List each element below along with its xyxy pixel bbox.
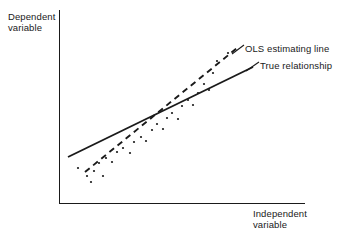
scatter-point [162,128,164,130]
scatter-point [93,170,95,172]
scatter-point [177,118,179,120]
scatter-point [102,175,104,177]
scatter-point [86,175,88,177]
plot-canvas [0,0,342,239]
scatter-point [77,167,79,169]
x-axis-label: Independent variable [253,208,307,230]
ols-estimating-line [85,48,237,172]
scatter-point [111,161,113,163]
scatter-point [208,89,210,91]
x-axis-label-line2: variable [253,219,307,230]
ols-estimating-line-label: OLS estimating line [245,43,329,54]
regression-figure: Dependent variable Independent variable … [0,0,342,239]
scatter-point [227,52,229,54]
scatter-point [116,151,118,153]
y-axis-label-line2: variable [8,22,55,33]
scatter-point [181,105,183,107]
scatter-point [105,157,107,159]
scatter-point [156,123,158,125]
scatter-point [212,72,214,74]
scatter-point [171,112,173,114]
true-relationship-label: True relationship [260,60,332,71]
scatter-point [98,162,100,164]
scatter-point [129,152,131,154]
scatter-point [151,129,153,131]
scatter-point [122,147,124,149]
y-axis-label-line1: Dependent [8,11,55,22]
y-axis-label: Dependent variable [8,11,55,33]
true-label-leader-line [246,62,259,71]
scatter-point [90,181,92,183]
scatter-point [216,60,218,62]
scatter-point [192,104,194,106]
x-axis-label-line1: Independent [253,208,307,219]
scatter-point [166,117,168,119]
true-relationship-line [68,67,253,157]
scatter-point [140,136,142,138]
scatter-point [145,140,147,142]
scatter-point [197,92,199,94]
scatter-point [187,99,189,101]
scatter-point [133,141,135,143]
scatter-point [203,83,205,85]
